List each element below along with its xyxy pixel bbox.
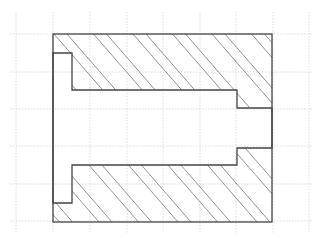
inner-cavity-outline xyxy=(53,53,272,203)
hatch-line xyxy=(89,29,261,227)
hatch-line xyxy=(10,29,182,227)
hatch-line xyxy=(142,29,314,227)
hatch-line xyxy=(0,29,24,227)
hatch-line xyxy=(0,29,37,227)
hatch-line xyxy=(129,29,301,227)
outer-body-outline xyxy=(53,34,272,222)
hatch-line xyxy=(50,29,222,227)
hatch-pattern xyxy=(0,29,318,227)
hatch-line xyxy=(0,29,103,227)
hatch-line xyxy=(300,29,318,227)
hatch-line xyxy=(260,29,318,227)
hatch-line xyxy=(247,29,318,227)
hatch-line xyxy=(0,29,116,227)
hatch-line xyxy=(23,29,195,227)
section-drawing xyxy=(0,0,318,243)
background-grid xyxy=(10,12,312,234)
hatch-line xyxy=(102,29,274,227)
hatch-line xyxy=(287,29,318,227)
hatch-line xyxy=(208,29,318,227)
hatch-line xyxy=(63,29,235,227)
hatch-line xyxy=(181,29,318,227)
hatch-line xyxy=(168,29,318,227)
hatch-line xyxy=(0,29,64,227)
part-outlines xyxy=(53,34,272,222)
hatch-line xyxy=(0,29,77,227)
